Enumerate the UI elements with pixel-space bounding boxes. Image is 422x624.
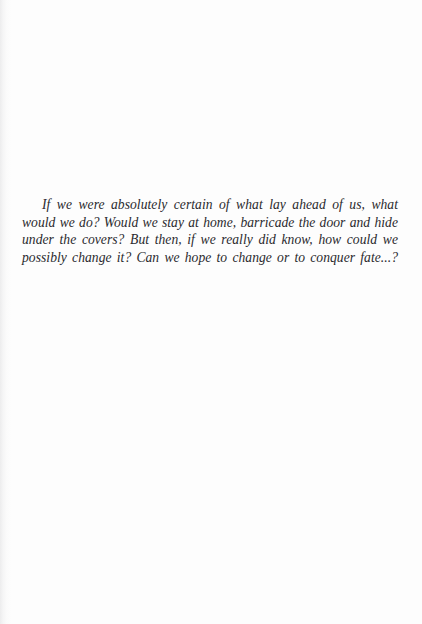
book-page: If we were absolutely certain of what la… xyxy=(0,0,422,624)
epigraph-block: If we were absolutely certain of what la… xyxy=(22,196,398,284)
scan-gutter-shadow xyxy=(0,0,11,624)
page-background xyxy=(0,0,422,624)
epigraph-text: If we were absolutely certain of what la… xyxy=(22,196,398,284)
